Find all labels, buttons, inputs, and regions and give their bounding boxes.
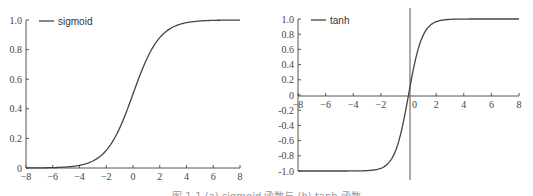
x-tick-label: 2	[434, 99, 439, 110]
x-tick-label: −2	[376, 99, 387, 110]
x-tick-label: −2	[101, 171, 112, 182]
x-tick-label: −6	[320, 99, 331, 110]
x-tick-label: −8	[293, 99, 304, 110]
y-tick-label: -0.8	[278, 150, 294, 161]
x-tick-label: 0	[131, 171, 136, 182]
y-tick-label: -0.4	[278, 120, 294, 131]
y-tick-label: 0.8	[10, 44, 23, 55]
x-tick-label: −4	[348, 99, 359, 110]
x-tick-label: 8	[238, 171, 243, 182]
tanh-curve	[298, 19, 519, 171]
x-tick-label: −8	[21, 171, 32, 182]
x-tick-label: 4	[184, 171, 189, 182]
sigmoid-curve	[26, 20, 240, 168]
figure: 00.20.40.60.81.0−8−6−4−202468sigmoid-1.0…	[0, 0, 533, 196]
x-tick-label: 2	[157, 171, 162, 182]
x-tick-label: −6	[47, 171, 58, 182]
x-tick-label: 8	[517, 99, 522, 110]
figure-caption: 图 1-1 (a) sigmoid 函数与 (b) tanh 函数	[0, 188, 533, 196]
y-tick-label: 0.4	[10, 103, 23, 114]
y-tick-label: 1.0	[10, 15, 23, 26]
legend-label: sigmoid	[58, 16, 92, 27]
sigmoid-chart: 00.20.40.60.81.0−8−6−4−202468sigmoid	[10, 15, 243, 183]
x-tick-label: 4	[461, 99, 466, 110]
y-tick-label: -0.2	[278, 105, 294, 116]
tanh-chart: -1.0-0.8-0.6-0.4-0.200.20.40.60.81.0−8−6…	[278, 8, 521, 180]
y-tick-label: 0.2	[282, 74, 295, 85]
y-tick-label: 0.8	[282, 29, 295, 40]
y-tick-label: 0.6	[282, 44, 295, 55]
y-tick-label: 0.6	[10, 74, 23, 85]
x-tick-label: 6	[211, 171, 216, 182]
y-tick-label: 0.4	[282, 59, 295, 70]
y-tick-label: -0.6	[278, 135, 294, 146]
y-tick-label: -1.0	[278, 166, 294, 177]
x-tick-label: 0	[412, 99, 417, 110]
x-tick-label: 6	[489, 99, 494, 110]
x-tick-label: −4	[74, 171, 85, 182]
legend-label: tanh	[330, 15, 349, 26]
y-tick-label: 1.0	[282, 14, 295, 25]
y-tick-label: 0.2	[10, 133, 23, 144]
